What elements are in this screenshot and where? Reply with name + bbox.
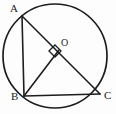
vertex-label-c: C	[104, 90, 111, 101]
center-label-o: O	[61, 38, 68, 48]
vertex-label-a: A	[10, 3, 18, 14]
segment-BO	[24, 50, 59, 96]
geometry-figure: A B C O	[0, 0, 116, 114]
segment-AB	[22, 16, 24, 96]
vertex-label-b: B	[11, 91, 18, 102]
